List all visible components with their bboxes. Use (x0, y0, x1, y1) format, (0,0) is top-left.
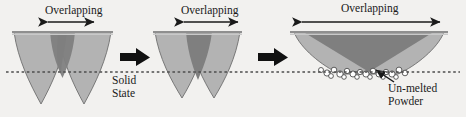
solid-state-label-line1: Solid (112, 74, 136, 87)
melt-pool-overlap-figure: Overlapping Overlapping Overlapping Soli… (0, 0, 466, 117)
overlapping-label-2: Overlapping (181, 4, 238, 17)
stage-2-group (153, 22, 242, 98)
unmelted-powder-label-line2: Powder (388, 95, 437, 108)
unmelted-powder-label: Un-melted Powder (388, 82, 437, 108)
solid-state-label: Solid State (112, 74, 136, 100)
stage-1-group (12, 22, 113, 104)
overlapping-label-1: Overlapping (45, 4, 102, 17)
overlapping-label-3: Overlapping (341, 2, 398, 15)
transition-arrow-1 (120, 48, 150, 66)
solid-state-label-line2: State (112, 87, 136, 100)
stage-3-group (290, 22, 448, 82)
transition-arrow-2 (258, 48, 288, 66)
unmelted-powder-label-line1: Un-melted (388, 82, 437, 95)
